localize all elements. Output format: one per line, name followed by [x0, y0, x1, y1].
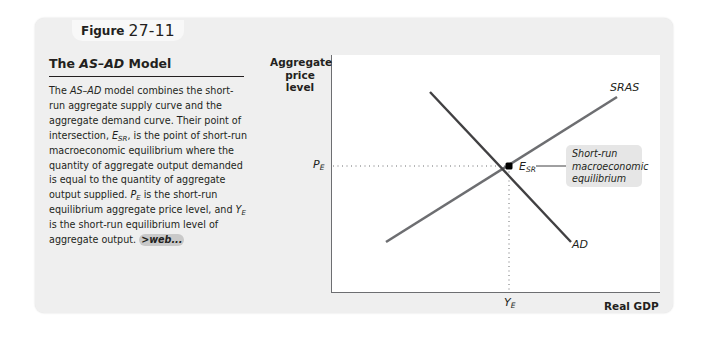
pe-sub: E — [320, 163, 325, 172]
callout-line: equilibrium — [572, 173, 642, 186]
ad-curve — [430, 92, 571, 242]
callout-line: Short-run — [572, 148, 642, 161]
y-tick-pe: PE — [313, 158, 324, 171]
ye-main: Y — [504, 296, 511, 309]
x-axis-title: Real GDP — [604, 300, 659, 313]
x-tick-ye: YE — [504, 296, 515, 309]
y-axis-title-line: Aggregate — [270, 56, 330, 69]
equilibrium-label: ESR — [519, 160, 536, 173]
sras-label: SRAS — [610, 81, 639, 94]
equilibrium-point — [506, 163, 513, 170]
y-axis-title-line: level — [270, 81, 330, 94]
equilibrium-callout: Short-run macroeconomic equilibrium — [566, 145, 642, 187]
esr-sub: SR — [526, 165, 536, 174]
esr-main: E — [519, 160, 526, 173]
y-axis-title-line: price — [270, 69, 330, 82]
y-axis-title: Aggregate price level — [270, 56, 330, 94]
ad-label: AD — [572, 238, 588, 251]
callout-line: macroeconomic — [572, 161, 642, 174]
ye-sub: E — [511, 301, 516, 310]
pe-main: P — [313, 158, 320, 171]
